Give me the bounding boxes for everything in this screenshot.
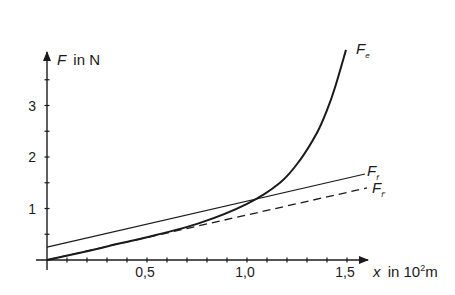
- series-line-f_f: [47, 174, 365, 247]
- y-tick-label: 1: [28, 201, 36, 217]
- y-axis-title: F in N: [57, 51, 100, 68]
- x-axis-title: x in 102m: [372, 263, 438, 280]
- x-tick-label: 0,5: [135, 264, 155, 280]
- series-label-f_fprime: Ff': [372, 179, 385, 199]
- series-line-f_e: [47, 50, 346, 260]
- y-tick-label: 2: [28, 149, 36, 165]
- y-tick-label: 3: [28, 98, 36, 114]
- x-tick-label: 1,0: [235, 264, 255, 280]
- x-tick-label: 1,5: [335, 264, 355, 280]
- force-extension-chart: 0,51,01,5 123 F in N x in 102m FeFfFf': [0, 0, 455, 295]
- x-axis-tick-labels: 0,51,01,5: [135, 264, 355, 280]
- series-label-f_e: Fe: [356, 40, 370, 60]
- y-axis-tick-labels: 123: [28, 98, 36, 217]
- series-group: [47, 50, 367, 260]
